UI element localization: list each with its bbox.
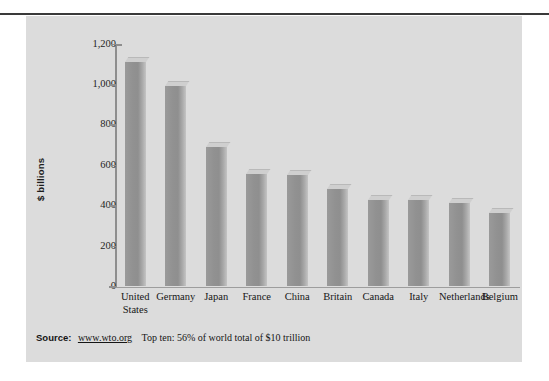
y-tick-label: 600 bbox=[38, 159, 116, 170]
bar-top-face bbox=[408, 195, 432, 200]
bar-top-face bbox=[246, 169, 270, 174]
source-url-link[interactable]: www.wto.org bbox=[78, 332, 132, 343]
bar-body bbox=[246, 174, 267, 286]
bar-top-face bbox=[125, 57, 149, 62]
x-label-line: France bbox=[242, 291, 271, 302]
bar-series bbox=[115, 16, 520, 288]
bar-belgium bbox=[489, 16, 510, 288]
y-tick-label: 1,000 bbox=[38, 78, 116, 89]
source-note-text: Top ten: 56% of world total of $10 trill… bbox=[142, 332, 311, 343]
y-tick-600: 600 bbox=[26, 159, 116, 172]
y-tick-label: 200 bbox=[38, 240, 116, 251]
top-divider-rule bbox=[0, 13, 549, 15]
x-label-line: Germany bbox=[156, 291, 195, 302]
y-axis-title: $ billions bbox=[35, 124, 51, 234]
bar-body bbox=[408, 200, 429, 286]
bar-body bbox=[287, 175, 308, 286]
bar-japan bbox=[206, 16, 227, 288]
y-tick-1000: 1,000 bbox=[26, 78, 116, 91]
bar-body bbox=[165, 86, 186, 286]
bar-germany bbox=[165, 16, 186, 288]
y-tick-200: 200 bbox=[26, 240, 116, 253]
x-label-line: Italy bbox=[409, 291, 428, 302]
x-axis-label-germany: Germany bbox=[156, 291, 197, 304]
bar-canada bbox=[368, 16, 389, 288]
bar-china bbox=[287, 16, 308, 288]
x-axis-category-labels: UnitedStatesGermanyJapanFranceChinaBrita… bbox=[115, 291, 520, 331]
y-tick-label: 400 bbox=[38, 199, 116, 210]
bar-top-face bbox=[165, 81, 189, 86]
source-label: Source: bbox=[36, 332, 71, 343]
x-axis-label-china: China bbox=[277, 291, 318, 304]
x-label-line: United bbox=[121, 291, 150, 302]
bar-britain bbox=[327, 16, 348, 288]
x-label-line: States bbox=[123, 304, 148, 315]
x-axis-label-japan: Japan bbox=[196, 291, 237, 304]
x-label-line: Belgium bbox=[482, 291, 518, 302]
x-axis-label-netherlands: Netherlands bbox=[439, 291, 480, 304]
bar-body bbox=[368, 200, 389, 287]
y-tick-0: 0 bbox=[26, 280, 116, 293]
source-caption: Source: www.wto.org Top ten: 56% of worl… bbox=[36, 332, 310, 343]
x-label-line: China bbox=[285, 291, 310, 302]
x-axis-label-britain: Britain bbox=[318, 291, 359, 304]
bar-netherlands bbox=[449, 16, 470, 288]
x-label-line: Canada bbox=[363, 291, 395, 302]
bar-top-face bbox=[449, 198, 473, 203]
bar-body bbox=[206, 147, 227, 286]
x-label-line: Britain bbox=[323, 291, 352, 302]
x-axis-label-united-states: UnitedStates bbox=[115, 291, 156, 316]
bar-top-face bbox=[327, 184, 351, 189]
bar-body bbox=[125, 62, 146, 286]
plot-area: $ billions 02004006008001,0001,200 Unite… bbox=[26, 16, 522, 316]
bar-body bbox=[449, 203, 470, 286]
bar-top-face bbox=[206, 142, 230, 147]
y-tick-label: 800 bbox=[38, 118, 116, 129]
y-tick-label: 0 bbox=[38, 280, 116, 291]
y-tick-800: 800 bbox=[26, 118, 116, 131]
bar-france bbox=[246, 16, 267, 288]
x-label-line: Japan bbox=[204, 291, 228, 302]
y-tick-label: 1,200 bbox=[38, 38, 116, 49]
x-axis-label-belgium: Belgium bbox=[480, 291, 521, 304]
x-axis-label-canada: Canada bbox=[358, 291, 399, 304]
chart-figure-panel: $ billions 02004006008001,0001,200 Unite… bbox=[26, 16, 522, 362]
y-tick-400: 400 bbox=[26, 199, 116, 212]
y-tick-1200: 1,200 bbox=[26, 38, 116, 51]
bar-top-face bbox=[368, 195, 392, 200]
bar-top-face bbox=[489, 208, 513, 213]
bar-body bbox=[489, 213, 510, 286]
x-axis-label-france: France bbox=[237, 291, 278, 304]
bar-top-face bbox=[287, 170, 311, 175]
bar-united-states bbox=[125, 16, 146, 288]
x-axis-label-italy: Italy bbox=[399, 291, 440, 304]
bar-italy bbox=[408, 16, 429, 288]
bar-body bbox=[327, 189, 348, 286]
